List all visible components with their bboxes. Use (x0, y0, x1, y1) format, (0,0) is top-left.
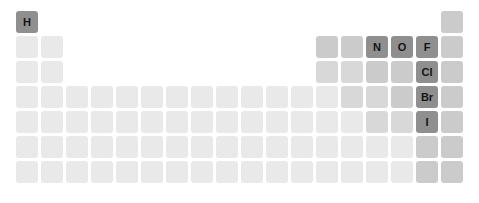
element-cell (441, 36, 463, 58)
element-cell (366, 61, 388, 83)
element-cell (41, 111, 63, 133)
element-cell (441, 11, 463, 33)
element-cell (366, 136, 388, 158)
element-cell (116, 86, 138, 108)
element-cell-n: N (366, 36, 388, 58)
element-cell (291, 86, 313, 108)
element-cell (216, 86, 238, 108)
element-cell (41, 136, 63, 158)
element-cell (316, 136, 338, 158)
element-cell (316, 86, 338, 108)
element-cell (266, 86, 288, 108)
element-cell (266, 111, 288, 133)
element-cell (66, 86, 88, 108)
element-cell (266, 161, 288, 183)
element-cell-cl: Cl (416, 61, 438, 83)
element-cell (41, 86, 63, 108)
element-cell (241, 86, 263, 108)
element-cell (216, 161, 238, 183)
element-cell (191, 111, 213, 133)
element-cell (341, 136, 363, 158)
element-cell (341, 161, 363, 183)
element-cell (141, 86, 163, 108)
element-cell (416, 136, 438, 158)
element-cell (16, 161, 38, 183)
element-cell (166, 86, 188, 108)
element-cell-f: F (416, 36, 438, 58)
element-cell (116, 136, 138, 158)
element-cell (166, 111, 188, 133)
element-cell (191, 161, 213, 183)
element-cell (291, 111, 313, 133)
element-cell (16, 111, 38, 133)
element-cell-h: H (16, 11, 38, 33)
element-cell (441, 136, 463, 158)
element-cell (16, 61, 38, 83)
element-cell (341, 111, 363, 133)
element-cell (241, 136, 263, 158)
element-cell (141, 111, 163, 133)
element-cell (391, 61, 413, 83)
element-cell (41, 36, 63, 58)
element-cell (191, 86, 213, 108)
element-cell (216, 136, 238, 158)
element-cell-br: Br (416, 86, 438, 108)
periodic-table-grid: HNOFClBrI (0, 0, 479, 203)
element-cell (241, 111, 263, 133)
element-cell (391, 161, 413, 183)
element-cell (16, 36, 38, 58)
element-cell (216, 111, 238, 133)
element-cell (116, 161, 138, 183)
element-cell (441, 61, 463, 83)
element-cell-i: I (416, 111, 438, 133)
element-cell (391, 136, 413, 158)
element-cell (441, 86, 463, 108)
element-cell (291, 161, 313, 183)
element-cell (316, 36, 338, 58)
element-cell (66, 136, 88, 158)
element-cell (341, 86, 363, 108)
element-cell (41, 61, 63, 83)
element-cell (166, 161, 188, 183)
element-cell (266, 136, 288, 158)
element-cell (391, 111, 413, 133)
element-cell (441, 111, 463, 133)
element-cell (116, 111, 138, 133)
element-cell (66, 111, 88, 133)
element-cell (291, 136, 313, 158)
element-cell (66, 161, 88, 183)
element-cell (416, 161, 438, 183)
element-cell (341, 36, 363, 58)
element-cell (341, 61, 363, 83)
element-cell (366, 111, 388, 133)
element-cell (141, 161, 163, 183)
element-cell (441, 161, 463, 183)
element-cell (316, 111, 338, 133)
element-cell (316, 61, 338, 83)
element-cell (316, 161, 338, 183)
element-cell (91, 86, 113, 108)
element-cell (191, 136, 213, 158)
element-cell (141, 136, 163, 158)
element-cell (391, 86, 413, 108)
element-cell (16, 136, 38, 158)
element-cell (91, 111, 113, 133)
element-cell-o: O (391, 36, 413, 58)
element-cell (241, 161, 263, 183)
element-cell (91, 161, 113, 183)
element-cell (91, 136, 113, 158)
element-cell (366, 86, 388, 108)
element-cell (41, 161, 63, 183)
element-cell (16, 86, 38, 108)
element-cell (166, 136, 188, 158)
element-cell (366, 161, 388, 183)
